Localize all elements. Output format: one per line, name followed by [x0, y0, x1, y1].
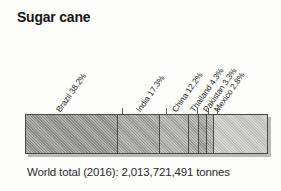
bar-segment-china [160, 115, 189, 153]
bar-segment-pakistan [199, 115, 207, 153]
stacked-bar [25, 114, 268, 154]
bar-segment-other [214, 115, 267, 153]
bar-segment-brazil [26, 115, 118, 153]
bar-segment-thailand [189, 115, 199, 153]
segment-label-layer: Brazil 38.2% India 17.3% China 12.2% Tha… [0, 0, 281, 114]
bar-segment-mexico [207, 115, 214, 153]
sugar-cane-chart: Sugar cane Brazil 38.2% India 17.3% Chin… [0, 0, 281, 191]
bar-segment-india [118, 115, 160, 153]
world-total-caption: World total (2016): 2,013,721,491 tonnes [27, 166, 230, 178]
